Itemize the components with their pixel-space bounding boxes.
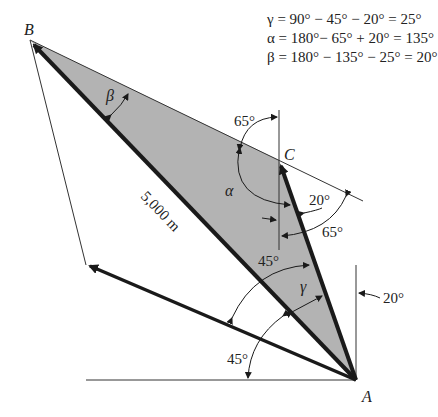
equation-alpha: α = 180°− 65° + 20° = 135° (267, 30, 434, 46)
gamma-label: γ (300, 278, 307, 296)
point-label-A: A (361, 388, 372, 405)
angle-20-right-label: 20° (309, 192, 330, 208)
angle-20-A-label: 20° (383, 290, 404, 306)
diagram-svg: γ = 90° − 45° − 20° = 25° α = 180°− 65° … (0, 0, 438, 417)
alpha-label: α (225, 182, 234, 199)
equation-beta: β = 180° − 135° − 25° = 20° (267, 49, 437, 65)
equation-gamma: γ = 90° − 45° − 20° = 25° (266, 11, 421, 27)
point-label-B: B (24, 21, 34, 38)
point-label-C: C (284, 146, 295, 163)
beta-label: β (105, 87, 114, 105)
angle-65-right-label: 65° (322, 224, 343, 240)
angle-65-top-label: 65° (234, 113, 255, 129)
pointer-arrow-A (359, 293, 380, 298)
angle-45-mid-label: 45° (258, 253, 279, 269)
vector-triangle-diagram: γ = 90° − 45° − 20° = 25° α = 180°− 65° … (0, 0, 438, 417)
angle-45-bottom-label: 45° (227, 351, 248, 367)
angle-20-right-arc (304, 208, 322, 213)
